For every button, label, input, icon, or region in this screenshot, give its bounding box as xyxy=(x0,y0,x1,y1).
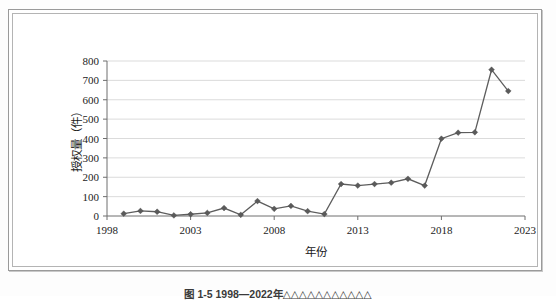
x-tick-label: 2023 xyxy=(514,224,537,236)
y-tick-label: 700 xyxy=(83,74,100,86)
x-tick-label: 2013 xyxy=(347,224,370,236)
data-point-marker xyxy=(221,205,227,211)
data-point-marker xyxy=(372,181,378,187)
y-axis-ticks: 0100200300400500600700800 xyxy=(83,55,108,222)
series-line xyxy=(124,70,509,216)
data-point-marker xyxy=(271,206,277,212)
data-point-marker xyxy=(405,176,411,182)
data-point-marker xyxy=(204,210,210,216)
x-tick-label: 1998 xyxy=(96,224,119,236)
data-point-marker xyxy=(355,183,361,189)
data-point-marker xyxy=(138,208,144,214)
data-point-marker xyxy=(154,209,160,215)
y-tick-label: 500 xyxy=(83,113,100,125)
y-tick-label: 300 xyxy=(83,152,100,164)
x-tick-label: 2018 xyxy=(430,224,453,236)
y-axis-title: 授权量（件） xyxy=(70,106,83,172)
data-point-marker xyxy=(439,136,445,142)
chart-svg: 0100200300400500600700800 19982003200820… xyxy=(9,10,543,272)
data-point-marker xyxy=(388,180,394,186)
data-point-marker xyxy=(305,208,311,214)
y-tick-label: 0 xyxy=(94,210,100,222)
y-tick-label: 400 xyxy=(83,133,100,145)
x-axis-title: 年份 xyxy=(305,245,328,258)
y-tick-label: 200 xyxy=(83,171,100,183)
data-point-marker xyxy=(422,183,428,189)
data-markers xyxy=(121,67,511,219)
figure-frame: 0100200300400500600700800 19982003200820… xyxy=(8,9,542,271)
y-tick-label: 100 xyxy=(83,191,100,203)
data-point-marker xyxy=(171,213,177,219)
data-point-marker xyxy=(338,181,344,187)
x-axis-ticks: 199820032008201320182023 xyxy=(96,216,537,236)
line-chart: 0100200300400500600700800 19982003200820… xyxy=(9,10,543,272)
data-point-marker xyxy=(455,130,461,136)
figure-caption: 图 1-5 1998—2022年△△△△△△△△△△△ xyxy=(0,286,556,301)
y-tick-label: 800 xyxy=(83,55,100,67)
data-point-marker xyxy=(472,129,478,135)
y-tick-label: 600 xyxy=(83,94,100,106)
data-point-marker xyxy=(288,203,294,209)
x-tick-label: 2008 xyxy=(263,224,286,236)
x-tick-label: 2003 xyxy=(180,224,203,236)
grid-lines xyxy=(107,61,525,197)
data-series xyxy=(124,70,509,216)
